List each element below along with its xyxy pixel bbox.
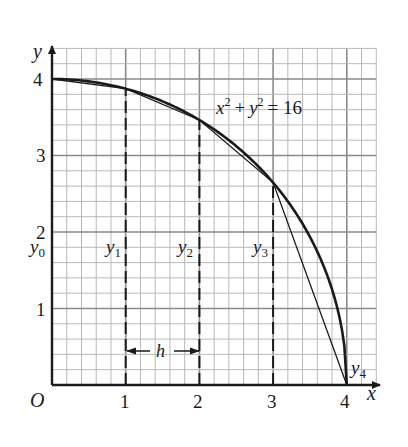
x-tick-3: 3	[267, 391, 277, 412]
x-tick-4: 4	[340, 391, 350, 412]
x-tick-2: 2	[193, 391, 203, 412]
y-tick-1: 1	[36, 299, 46, 320]
y-tick-3: 3	[36, 145, 46, 166]
x-axis-label: x	[366, 382, 376, 404]
x-tick-1: 1	[120, 391, 130, 412]
label-y2: y2	[176, 236, 193, 260]
origin-label: O	[30, 389, 44, 411]
y-tick-4: 4	[33, 69, 43, 90]
label-y4: y4	[349, 357, 366, 381]
grid	[52, 48, 376, 385]
label-y1: y1	[104, 236, 121, 260]
label-y3: y3	[251, 236, 268, 260]
y-axis-label: y	[31, 40, 42, 63]
trapezoid-figure: h y x O 1 2 3 4 1 2 3 4 y0 y1 y2 y3 y4 x…	[0, 0, 408, 447]
h-label: h	[156, 341, 165, 361]
diagram-canvas: h y x O 1 2 3 4 1 2 3 4 y0 y1 y2 y3 y4 x…	[0, 0, 408, 447]
